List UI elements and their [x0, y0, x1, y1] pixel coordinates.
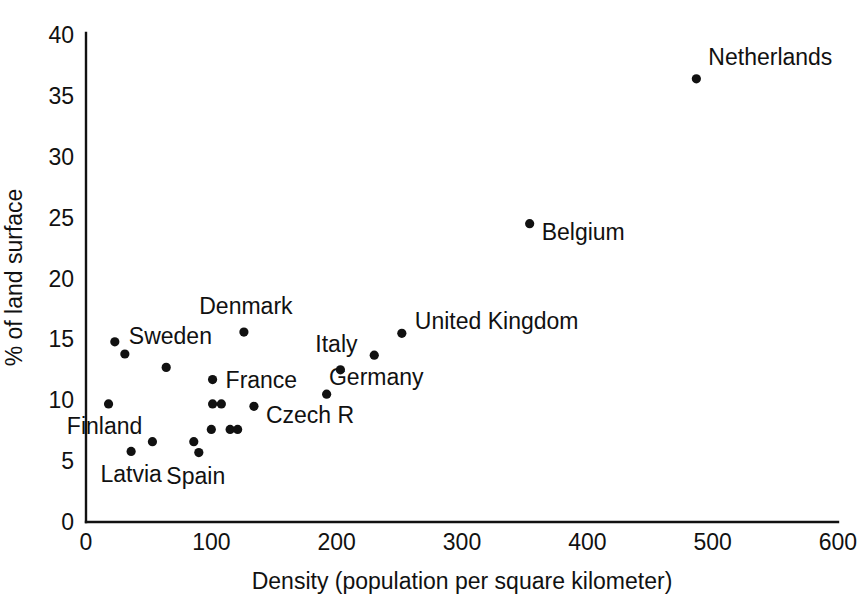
x-tick-label: 300: [443, 529, 481, 555]
y-tick-label: 25: [48, 205, 74, 231]
x-tick-label: 500: [693, 529, 731, 555]
data-point: [120, 349, 129, 358]
data-point: [322, 390, 331, 399]
x-tick-label: 600: [819, 529, 857, 555]
point-marker: [148, 437, 157, 446]
point-marker: [370, 351, 379, 360]
data-point: [217, 399, 226, 408]
y-tick-label: 20: [48, 266, 74, 292]
point-label: Czech R: [266, 402, 354, 428]
y-tick-label: 10: [48, 387, 74, 413]
point-marker: [239, 327, 248, 336]
point-label: Belgium: [542, 219, 625, 245]
point-marker: [208, 399, 217, 408]
point-marker: [127, 447, 136, 456]
data-point: [162, 363, 171, 372]
x-axis-title: Density (population per square kilometer…: [252, 568, 673, 594]
point-marker: [692, 74, 701, 83]
y-tick-label: 40: [48, 22, 74, 48]
data-point: Latvia: [100, 447, 162, 488]
data-point: Sweden: [110, 323, 212, 349]
data-point: Spain: [166, 437, 225, 489]
point-marker: [525, 219, 534, 228]
point-marker: [397, 329, 406, 338]
data-point: [148, 437, 157, 446]
y-tick-label: 35: [48, 83, 74, 109]
point-label: Sweden: [129, 323, 212, 349]
point-label: Netherlands: [708, 44, 832, 70]
point-label: Finland: [67, 413, 142, 439]
point-marker: [208, 375, 217, 384]
x-tick-label: 200: [317, 529, 355, 555]
x-tick-label: 0: [80, 529, 93, 555]
point-label: Italy: [315, 331, 358, 357]
point-marker: [104, 399, 113, 408]
data-point: [208, 399, 217, 408]
data-point: Denmark: [199, 293, 293, 337]
point-marker: [120, 349, 129, 358]
y-tick-label: 5: [61, 448, 74, 474]
point-marker: [322, 390, 331, 399]
data-point: United Kingdom: [397, 308, 578, 338]
data-point: France: [208, 367, 297, 393]
data-point: [233, 425, 242, 434]
data-point: [194, 448, 203, 457]
data-point: Finland: [67, 399, 142, 439]
data-point: [207, 425, 216, 434]
point-marker: [110, 337, 119, 346]
y-axis-title: % of land surface: [1, 189, 27, 367]
x-axis-ticks: 0100200300400500600: [80, 529, 858, 555]
y-tick-label: 15: [48, 326, 74, 352]
y-axis-ticks: 0510152025303540: [48, 22, 74, 535]
point-label: Spain: [166, 463, 225, 489]
point-marker: [189, 437, 198, 446]
point-marker: [233, 425, 242, 434]
point-marker: [194, 448, 203, 457]
point-marker: [217, 399, 226, 408]
point-marker: [207, 425, 216, 434]
plot-canvas: 0100200300400500600 0510152025303540 Net…: [0, 0, 868, 608]
point-label: Denmark: [199, 293, 293, 319]
point-marker: [336, 365, 345, 374]
data-points-group: NetherlandsBelgiumUnited KingdomDenmarkS…: [67, 44, 833, 489]
y-tick-label: 30: [48, 144, 74, 170]
point-marker: [249, 402, 258, 411]
y-tick-label: 0: [61, 509, 74, 535]
point-marker: [162, 363, 171, 372]
data-point: Netherlands: [692, 44, 833, 84]
x-tick-label: 100: [192, 529, 230, 555]
scatter-plot-figure: 0100200300400500600 0510152025303540 Net…: [0, 0, 868, 608]
point-label: France: [226, 367, 298, 393]
data-point: Czech R: [249, 402, 354, 429]
point-label: Latvia: [100, 461, 162, 487]
x-tick-label: 400: [568, 529, 606, 555]
data-point: Belgium: [525, 219, 625, 245]
point-label: United Kingdom: [415, 308, 579, 334]
